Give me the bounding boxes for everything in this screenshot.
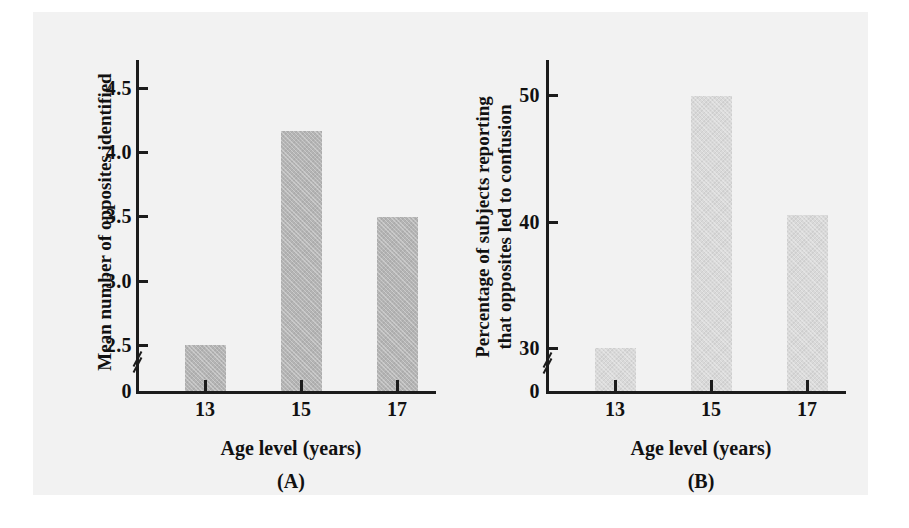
- panel-a-y-tick-2-5: [137, 344, 148, 347]
- panel-a-y-tick-3-0: [137, 280, 148, 283]
- panel-a-x-tick-label-17: 17: [367, 399, 427, 419]
- panel-a-plot-area: Mean number of opposites identified 4.5 …: [20, 0, 454, 528]
- panel-b-x-tick-label-17: 17: [777, 399, 837, 419]
- panel-a-x-axis-title: Age level (years): [146, 437, 436, 459]
- panel-b-x-axis-line: [546, 391, 846, 394]
- panel-b-y-tick-label-40: 40: [486, 212, 540, 232]
- panel-a-x-tick-13: [204, 380, 207, 391]
- panel-b-plot-area: Percentage of subjects reporting that op…: [434, 0, 868, 528]
- panel-b-x-tick-label-13: 13: [585, 399, 645, 419]
- panel-a-y-tick-4-5: [137, 87, 148, 90]
- panel-b-bar-15: [691, 96, 732, 391]
- panel-b-y-tick-50: [547, 94, 558, 97]
- panel-b-label: (B): [556, 470, 846, 492]
- panel-b-y-tick-30: [547, 347, 558, 350]
- panel-a-x-tick-17: [396, 380, 399, 391]
- panel-a-y-tick-4-0: [137, 151, 148, 154]
- panel-b-y-tick-label-50: 50: [486, 85, 540, 105]
- panel-b-y-axis-break: [537, 358, 557, 378]
- panel-a-y-tick-label-2-5: 2.5: [76, 335, 132, 355]
- panel-a-y-axis-break: [127, 357, 147, 377]
- panel-b: Percentage of subjects reporting that op…: [434, 0, 868, 528]
- panel-a-x-axis-line: [136, 391, 436, 394]
- panel-a-x-tick-label-15: 15: [271, 399, 331, 419]
- panel-b-y-tick-40: [547, 221, 558, 224]
- panel-a-bar-17: [377, 217, 418, 391]
- panel-a-y-tick-3-5: [137, 215, 148, 218]
- panel-b-x-tick-17: [806, 380, 809, 391]
- panel-a-x-tick-15: [300, 380, 303, 391]
- panel-a-label: (A): [146, 470, 436, 492]
- panel-b-x-tick-15: [710, 380, 713, 391]
- panel-a-bar-15: [281, 131, 322, 391]
- panel-a-y-tick-label-4-5: 4.5: [76, 78, 132, 98]
- panel-b-x-tick-label-15: 15: [681, 399, 741, 419]
- panel-a-y-tick-label-3-0: 3.0: [76, 271, 132, 291]
- panel-b-x-axis-title: Age level (years): [556, 437, 846, 459]
- figure-container: Mean number of opposites identified 4.5 …: [0, 0, 909, 528]
- panel-b-bar-17: [787, 215, 828, 391]
- panel-b-x-tick-13: [614, 380, 617, 391]
- panel-a-y-tick-label-3-5: 3.5: [76, 206, 132, 226]
- panel-b-y-tick-label-30: 30: [486, 338, 540, 358]
- panel-a-y-tick-label-0: 0: [76, 381, 132, 401]
- panel-a-x-tick-label-13: 13: [175, 399, 235, 419]
- panel-a: Mean number of opposites identified 4.5 …: [20, 0, 454, 528]
- panel-b-y-axis-line: [546, 60, 549, 394]
- panel-a-y-tick-label-4-0: 4.0: [76, 142, 132, 162]
- panel-b-y-tick-label-0: 0: [486, 381, 540, 401]
